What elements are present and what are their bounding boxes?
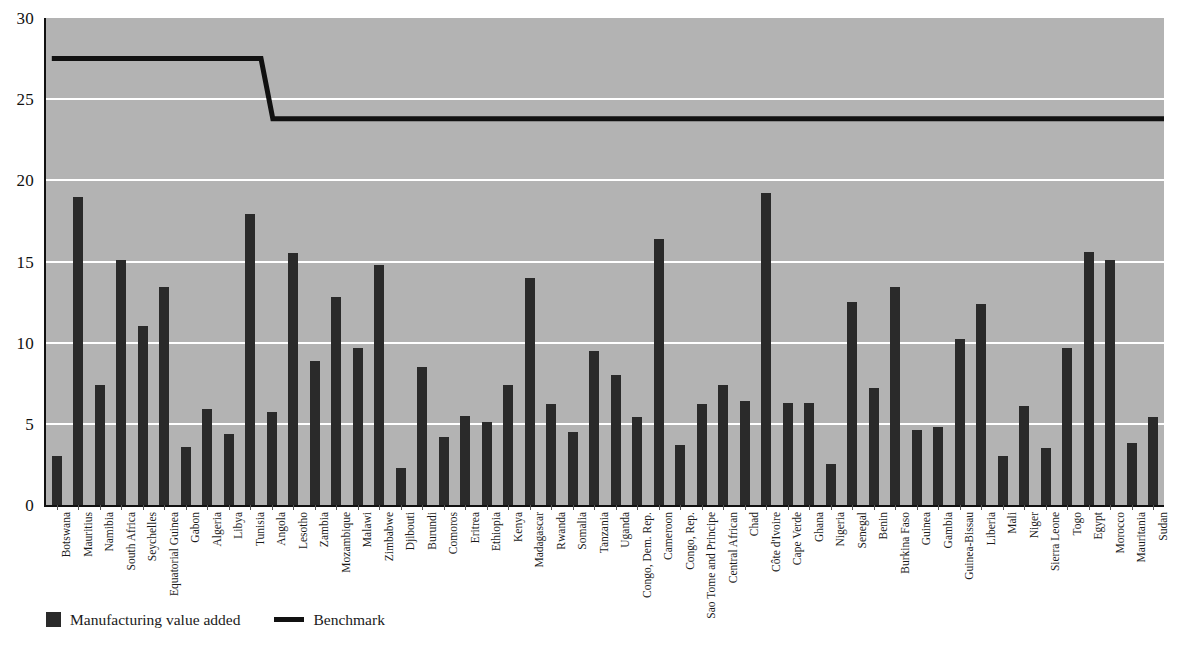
x-axis-label-text: Libya [233, 512, 245, 539]
x-axis-label-text: Ghana [814, 512, 826, 542]
x-axis-label-text: Somalia [577, 512, 589, 550]
x-axis-label: Ethiopia [491, 512, 503, 551]
x-axis-label: Sudan [1158, 512, 1170, 541]
x-axis-label-text: Gabon [190, 512, 202, 543]
x-axis-label-text: Mauritius [83, 512, 95, 557]
x-tick [745, 505, 746, 510]
x-axis-label: Burkina Faso [900, 512, 912, 574]
x-tick [637, 505, 638, 510]
x-axis-label-text: Niger [1029, 512, 1041, 538]
x-axis-label: Mauritania [1136, 512, 1148, 562]
x-axis-label: Zimbabwe [384, 512, 396, 561]
x-axis-label: Comoros [448, 512, 460, 554]
x-axis-label-text: Madagascar [534, 512, 546, 568]
x-axis-label: Seychelles [147, 512, 159, 561]
x-tick [1046, 505, 1047, 510]
x-tick [422, 505, 423, 510]
x-axis-label: Congo, Dem. Rep. [642, 512, 654, 598]
x-tick [659, 505, 660, 510]
x-axis-label: Burundi [427, 512, 439, 550]
x-tick [594, 505, 595, 510]
x-tick [766, 505, 767, 510]
x-axis-label-text: Namibia [104, 512, 116, 552]
x-axis-label: Gambia [943, 512, 955, 548]
x-axis-label: Madagascar [534, 512, 546, 568]
x-tick [809, 505, 810, 510]
x-axis-label-text: Zimbabwe [384, 512, 396, 561]
x-axis-label: Mauritius [83, 512, 95, 557]
x-axis-label-text: Equatorial Guinea [169, 512, 181, 596]
x-axis-label-text: Congo, Dem. Rep. [642, 512, 654, 598]
x-axis-label-text: Burundi [427, 512, 439, 550]
x-axis-label: Mali [1007, 512, 1019, 534]
x-axis-label-text: Djibouti [405, 512, 417, 550]
x-axis-label: Morocco [1115, 512, 1127, 554]
x-tick [272, 505, 273, 510]
x-axis-label-text: South Africa [126, 512, 138, 570]
legend-item-benchmark[interactable]: Benchmark [274, 612, 384, 628]
x-tick [164, 505, 165, 510]
x-axis-label-text: Côte d'Ivoire [771, 512, 783, 572]
x-tick [551, 505, 552, 510]
x-axis-label: Somalia [577, 512, 589, 550]
x-axis-label: Botswana [61, 512, 73, 557]
x-tick [1132, 505, 1133, 510]
x-tick [186, 505, 187, 510]
x-axis-label-text: Lesotho [298, 512, 310, 549]
x-tick [293, 505, 294, 510]
legend-label: Benchmark [313, 612, 384, 628]
x-axis-label-text: Morocco [1115, 512, 1127, 554]
x-axis-label-text: Angola [276, 512, 288, 546]
y-tick-label: 30 [17, 10, 34, 27]
x-tick [508, 505, 509, 510]
x-tick [831, 505, 832, 510]
x-tick [1003, 505, 1004, 510]
y-tick-label: 0 [25, 497, 34, 514]
x-axis-label: Djibouti [405, 512, 417, 550]
x-tick [573, 505, 574, 510]
legend-item-manufacturing-value-added[interactable]: Manufacturing value added [46, 612, 240, 628]
y-tick-label: 5 [25, 415, 34, 432]
x-axis-label-text: Zambia [319, 512, 331, 547]
x-tick [723, 505, 724, 510]
x-tick [981, 505, 982, 510]
x-tick [938, 505, 939, 510]
x-axis-label-text: Guinea-Bissau [964, 512, 976, 580]
x-tick [530, 505, 531, 510]
x-tick [960, 505, 961, 510]
x-tick [788, 505, 789, 510]
x-axis-label-text: Togo [1072, 512, 1084, 535]
x-tick [229, 505, 230, 510]
x-axis-label: Kenya [513, 512, 525, 542]
x-axis-label-text: Chad [749, 512, 761, 536]
x-axis-label-text: Gambia [943, 512, 955, 548]
y-tick-label: 10 [17, 334, 34, 351]
x-axis-label: Côte d'Ivoire [771, 512, 783, 572]
y-tick-label: 15 [17, 253, 34, 270]
chart-legend: Manufacturing value added Benchmark [46, 612, 385, 628]
benchmark-line [52, 59, 1164, 119]
x-axis-label-text: Seychelles [147, 512, 159, 561]
x-axis-label-text: Tanzania [599, 512, 611, 553]
x-axis-label-text: Senegal [857, 512, 869, 548]
y-tick-label: 25 [17, 91, 34, 108]
x-axis-label: Lesotho [298, 512, 310, 549]
x-axis-label: Equatorial Guinea [169, 512, 181, 596]
x-axis-label-text: Nigeria [835, 512, 847, 546]
x-axis-label: Benin [878, 512, 890, 539]
x-axis-label: Guinea [921, 512, 933, 545]
x-tick [465, 505, 466, 510]
x-axis-label: Guinea-Bissau [964, 512, 976, 580]
x-tick [487, 505, 488, 510]
x-tick [1067, 505, 1068, 510]
x-axis-label: Senegal [857, 512, 869, 548]
x-tick [315, 505, 316, 510]
x-tick [358, 505, 359, 510]
x-tick [1110, 505, 1111, 510]
benchmark-line-svg [46, 18, 1164, 505]
x-axis-label: Cameroon [663, 512, 675, 560]
x-axis-label: Uganda [620, 512, 632, 548]
x-axis-label: Ghana [814, 512, 826, 542]
x-tick [702, 505, 703, 510]
x-axis-label: Nigeria [835, 512, 847, 546]
